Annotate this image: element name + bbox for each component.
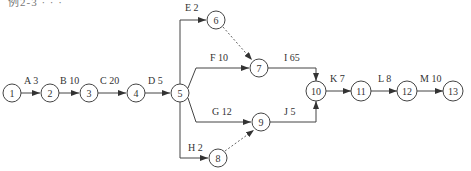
node-2: 2 xyxy=(41,84,59,102)
node-13: 13 xyxy=(443,81,463,101)
label-J: J 5 xyxy=(284,106,295,117)
label-I: I 65 xyxy=(284,52,300,63)
svg-text:11: 11 xyxy=(356,86,366,97)
node-5: 5 xyxy=(171,84,189,102)
svg-text:8: 8 xyxy=(216,153,221,164)
svg-text:1: 1 xyxy=(10,88,15,99)
node-11: 11 xyxy=(351,81,371,101)
node-9: 9 xyxy=(252,113,270,131)
svg-text:5: 5 xyxy=(178,88,183,99)
svg-text:9: 9 xyxy=(259,117,264,128)
node-12: 12 xyxy=(397,81,417,101)
node-1: 1 xyxy=(3,84,21,102)
event-nodes: 1 2 3 4 5 6 7 8 9 10 11 12 13 xyxy=(3,11,463,167)
label-F: F 10 xyxy=(210,52,228,63)
node-6: 6 xyxy=(207,11,225,29)
node-3: 3 xyxy=(80,84,98,102)
label-C: C 20 xyxy=(100,75,119,86)
dummy-edges xyxy=(223,27,254,151)
node-4: 4 xyxy=(127,84,145,102)
label-E: E 2 xyxy=(185,2,199,13)
svg-text:2: 2 xyxy=(48,88,53,99)
node-10: 10 xyxy=(306,81,326,101)
label-L: L 8 xyxy=(378,73,391,84)
svg-text:10: 10 xyxy=(311,86,321,97)
svg-text:13: 13 xyxy=(448,86,458,97)
svg-text:4: 4 xyxy=(134,88,139,99)
svg-text:12: 12 xyxy=(402,86,412,97)
svg-text:3: 3 xyxy=(87,88,92,99)
label-H: H 2 xyxy=(188,142,203,153)
svg-text:7: 7 xyxy=(257,63,262,74)
node-8: 8 xyxy=(209,149,227,167)
label-K: K 7 xyxy=(330,73,345,84)
activity-labels: A 3 B 10 C 20 D 5 E 2 F 10 G 12 H 2 I 65… xyxy=(24,2,441,153)
dummy-edge-8-9 xyxy=(225,130,254,151)
svg-text:6: 6 xyxy=(214,15,219,26)
label-A: A 3 xyxy=(24,75,38,86)
label-G: G 12 xyxy=(212,106,232,117)
label-D: D 5 xyxy=(148,75,163,86)
edge-I xyxy=(268,68,316,81)
edge-F xyxy=(188,68,249,88)
network-diagram: A 3 B 10 C 20 D 5 E 2 F 10 G 12 H 2 I 65… xyxy=(0,0,471,171)
node-7: 7 xyxy=(250,59,268,77)
label-M: M 10 xyxy=(420,73,441,84)
label-B: B 10 xyxy=(60,75,79,86)
